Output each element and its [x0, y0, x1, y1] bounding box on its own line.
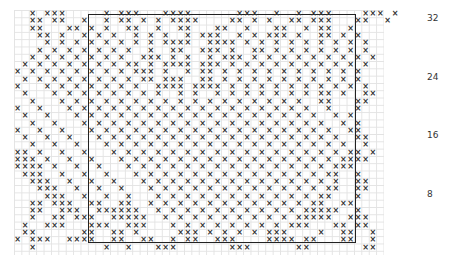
stitch-cross: × — [44, 236, 51, 243]
stitch-cross: × — [236, 171, 243, 178]
stitch-cross: × — [243, 149, 250, 156]
stitch-cross: × — [362, 47, 369, 54]
stitch-cross: × — [251, 141, 258, 148]
stitch-cross: × — [14, 127, 21, 134]
stitch-cross: × — [192, 127, 199, 134]
stitch-cross: × — [147, 236, 154, 243]
stitch-cross: × — [73, 163, 80, 170]
stitch-cross: × — [169, 149, 176, 156]
stitch-cross: × — [192, 236, 199, 243]
stitch-cross: × — [73, 214, 80, 221]
stitch-cross: × — [317, 98, 324, 105]
stitch-cross: × — [118, 39, 125, 46]
stitch-cross: × — [236, 112, 243, 119]
stitch-cross: × — [162, 39, 169, 46]
stitch-cross: × — [184, 39, 191, 46]
stitch-cross: × — [36, 149, 43, 156]
stitch-cross: × — [295, 127, 302, 134]
stitch-cross: × — [95, 185, 102, 192]
stitch-cross: × — [354, 105, 361, 112]
stitch-cross: × — [177, 200, 184, 207]
stitch-cross: × — [199, 120, 206, 127]
stitch-cross: × — [229, 149, 236, 156]
stitch-cross: × — [184, 207, 191, 214]
stitch-cross: × — [29, 244, 36, 251]
stitch-cross: × — [273, 134, 280, 141]
stitch-cross: × — [177, 61, 184, 68]
stitch-cross: × — [140, 178, 147, 185]
stitch-cross: × — [192, 200, 199, 207]
stitch-cross: × — [310, 236, 317, 243]
stitch-cross: × — [295, 185, 302, 192]
stitch-cross: × — [140, 54, 147, 61]
stitch-cross: × — [266, 185, 273, 192]
stitch-cross: × — [347, 112, 354, 119]
stitch-cross: × — [251, 112, 258, 119]
stitch-cross: × — [88, 83, 95, 90]
stitch-cross: × — [44, 193, 51, 200]
stitch-cross: × — [51, 141, 58, 148]
stitch-cross: × — [347, 236, 354, 243]
stitch-cross: × — [199, 149, 206, 156]
stitch-cross: × — [81, 193, 88, 200]
stitch-cross: × — [295, 17, 302, 24]
stitch-cross: × — [332, 185, 339, 192]
stitch-cross: × — [169, 163, 176, 170]
stitch-cross: × — [95, 207, 102, 214]
stitch-cross: × — [236, 200, 243, 207]
stitch-cross: × — [273, 105, 280, 112]
stitch-cross: × — [140, 149, 147, 156]
stitch-cross: × — [44, 156, 51, 163]
stitch-cross: × — [21, 90, 28, 97]
stitch-cross: × — [214, 163, 221, 170]
stitch-cross: × — [192, 141, 199, 148]
stitch-cross: × — [266, 112, 273, 119]
stitch-cross: × — [95, 222, 102, 229]
stitch-cross: × — [236, 141, 243, 148]
stitch-cross: × — [125, 61, 132, 68]
stitch-cross: × — [340, 32, 347, 39]
stitch-cross: × — [310, 156, 317, 163]
stitch-cross: × — [303, 244, 310, 251]
stitch-cross: × — [110, 149, 117, 156]
stitch-cross: × — [273, 10, 280, 17]
stitch-cross: × — [110, 47, 117, 54]
stitch-cross: × — [155, 25, 162, 32]
stitch-cross: × — [184, 163, 191, 170]
stitch-cross: × — [73, 25, 80, 32]
stitch-cross: × — [81, 76, 88, 83]
stitch-cross: × — [317, 61, 324, 68]
stitch-cross: × — [236, 76, 243, 83]
stitch-cross: × — [288, 193, 295, 200]
stitch-cross: × — [73, 141, 80, 148]
stitch-cross: × — [258, 134, 265, 141]
stitch-cross: × — [236, 156, 243, 163]
stitch-cross: × — [88, 236, 95, 243]
stitch-cross: × — [214, 105, 221, 112]
stitch-cross: × — [95, 76, 102, 83]
stitch-cross: × — [354, 193, 361, 200]
stitch-cross: × — [192, 156, 199, 163]
stitch-cross: × — [295, 222, 302, 229]
stitch-cross: × — [73, 83, 80, 90]
stitch-cross: × — [347, 25, 354, 32]
stitch-cross: × — [229, 178, 236, 185]
stitch-cross: × — [29, 141, 36, 148]
stitch-cross: × — [44, 10, 51, 17]
stitch-cross: × — [184, 178, 191, 185]
stitch-cross: × — [118, 236, 125, 243]
stitch-cross: × — [44, 134, 51, 141]
stitch-cross: × — [155, 207, 162, 214]
stitch-cross: × — [162, 10, 169, 17]
stitch-cross: × — [169, 222, 176, 229]
stitch-cross: × — [221, 54, 228, 61]
stitch-cross: × — [310, 214, 317, 221]
stitch-cross: × — [280, 32, 287, 39]
stitch-cross: × — [258, 149, 265, 156]
stitch-cross: × — [377, 10, 384, 17]
stitch-cross: × — [58, 17, 65, 24]
stitch-cross: × — [243, 134, 250, 141]
stitch-cross: × — [236, 229, 243, 236]
stitch-cross: × — [369, 149, 376, 156]
stitch-cross: × — [147, 76, 154, 83]
